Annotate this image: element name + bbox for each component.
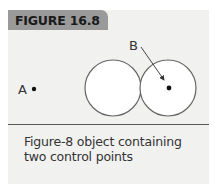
left-circle	[85, 60, 141, 116]
point-b-label: B	[129, 38, 138, 53]
point-a-dot	[32, 87, 36, 91]
point-b-dot	[167, 86, 172, 91]
figure-caption: Figure-8 object containing two control p…	[24, 134, 204, 164]
point-a-label: A	[18, 82, 27, 97]
figure-8-diagram: A B	[0, 0, 216, 194]
caption-divider	[8, 124, 209, 125]
